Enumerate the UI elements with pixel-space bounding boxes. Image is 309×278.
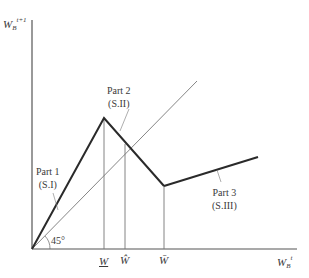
leader-part2 xyxy=(120,109,129,131)
angle-label: 45° xyxy=(51,234,65,247)
label-part3: Part 3 (S.III) xyxy=(212,186,237,212)
label-part1: Part 1 (S.I) xyxy=(36,165,60,191)
angle-arc xyxy=(45,236,50,249)
map-part3 xyxy=(164,157,258,186)
label-part2: Part 2 (S.II) xyxy=(107,84,131,110)
diagram-canvas xyxy=(0,0,309,278)
leader-part3 xyxy=(217,170,221,182)
tick-w-underbar: W xyxy=(99,255,108,268)
tick-w-bar: W̄ xyxy=(159,254,168,267)
x-axis-label: WBt xyxy=(277,252,292,273)
y-axis-label: WBt+1 xyxy=(3,14,27,35)
tick-w-hat: Ŵ xyxy=(120,254,129,267)
